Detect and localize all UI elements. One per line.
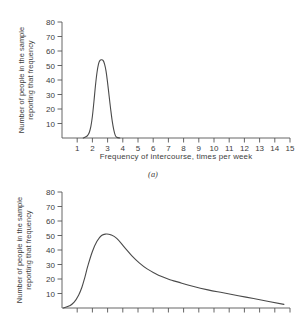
y-tick-label: 60	[46, 217, 55, 226]
y-tick-label: 30	[46, 261, 55, 270]
y-ticks-a	[58, 22, 63, 124]
y-tick-label: 50	[46, 232, 55, 241]
x-axis-title-a: Frequency of intercourse, times per week	[62, 152, 290, 161]
figure-two-distribution-charts: Number of people in the sample reporting…	[0, 0, 306, 316]
y-tick-label: 10	[46, 290, 55, 299]
y-tick-label: 70	[46, 33, 55, 42]
y-tick-label: 80	[46, 188, 55, 197]
y-ticks-b	[58, 192, 63, 294]
y-tick-label: 20	[46, 275, 55, 284]
chart-panel-a: Number of people in the sample reporting…	[0, 0, 306, 165]
y-tick-label: 80	[46, 18, 55, 27]
sub-caption-a: (a)	[0, 170, 306, 179]
chart-panel-b: Number of people in the sample reporting…	[0, 185, 306, 316]
y-tick-label: 20	[46, 105, 55, 114]
chart-b-plot: 80 70 60 50 40 30 20 10	[0, 185, 306, 316]
y-tick-label: 40	[46, 246, 55, 255]
data-curve-a	[83, 60, 119, 138]
y-tick-label: 40	[46, 76, 55, 85]
data-curve-b	[64, 234, 284, 308]
y-tick-label: 70	[46, 203, 55, 212]
y-tick-labels-a: 80 70 60 50 40 30 20 10	[46, 18, 55, 129]
y-tick-label: 10	[46, 120, 55, 129]
y-tick-label: 50	[46, 62, 55, 71]
y-tick-labels-b: 80 70 60 50 40 30 20 10	[46, 188, 55, 299]
x-ticks-b	[77, 308, 290, 313]
chart-a-plot: 80 70 60 50 40 30 20 10	[0, 0, 306, 165]
x-ticks-a	[77, 138, 290, 143]
y-tick-label: 30	[46, 91, 55, 100]
y-tick-label: 60	[46, 47, 55, 56]
